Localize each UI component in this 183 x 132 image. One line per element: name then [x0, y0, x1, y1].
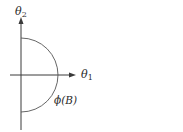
diagram: θ2 θ1 ϕ(B) [0, 0, 183, 132]
x-axis-label: θ1 [81, 68, 93, 82]
y-axis [19, 17, 24, 130]
y-axis-label: θ2 [15, 5, 27, 19]
x-axis [10, 73, 76, 78]
curve-label: ϕ(B) [54, 94, 77, 106]
x-axis-arrow-icon [69, 73, 76, 78]
